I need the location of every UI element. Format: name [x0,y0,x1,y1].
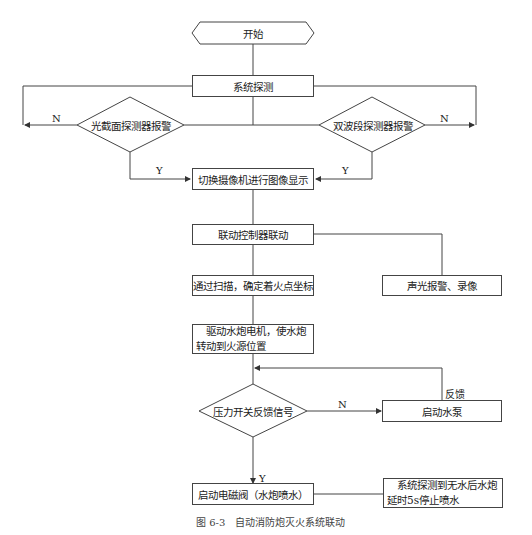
start-pump-box: 启动水泵 [382,400,502,422]
right-y-label: Y [342,165,349,176]
figure-caption: 图 6-3 自动消防炮灭火系统联动 [196,514,345,529]
start-terminator: 开始 [192,26,314,41]
decision-dual-band-detector: 双波段探测器报警 [322,118,424,133]
pressure-switch-decision: 压力开关反馈信号 [202,404,304,419]
solenoid-valve-box: 启动电磁阀（水炮喷水） [192,483,314,505]
linkage-controller-box: 联动控制器联动 [192,224,314,245]
alarm-record-box: 声光报警、录像 [382,275,502,296]
pressure-n-label: N [338,399,347,410]
left-n-label: N [52,113,61,124]
drive-motor-box: 驱动水炮电机，使水炮转动到火源位置 [192,324,314,354]
decision-light-section-detector: 光截面探测器报警 [80,118,182,133]
left-y-label: Y [156,165,163,176]
feedback-label: 反馈 [445,386,465,401]
right-n-label: N [440,113,449,124]
stop-spray-box: 系统探测到无水后水炮延时5s停止喷水 [383,478,503,508]
switch-camera-box: 切换摄像机进行图像显示 [192,168,314,190]
scan-coordinates-box: 通过扫描，确定着火点坐标 [192,275,314,296]
system-detect-box: 系统探测 [192,75,314,97]
